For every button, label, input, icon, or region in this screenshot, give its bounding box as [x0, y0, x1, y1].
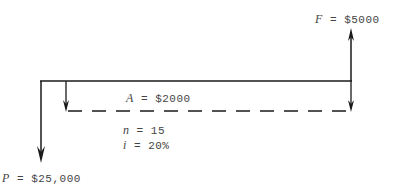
future-value-label: F = $5000	[315, 12, 380, 27]
cash-flow-diagram	[0, 0, 403, 188]
interest-label: i = 20%	[123, 138, 169, 153]
present-value-label: P = $25,000	[2, 171, 81, 186]
periods-label: n = 15	[123, 123, 165, 138]
annuity-label: A = $2000	[126, 91, 191, 106]
